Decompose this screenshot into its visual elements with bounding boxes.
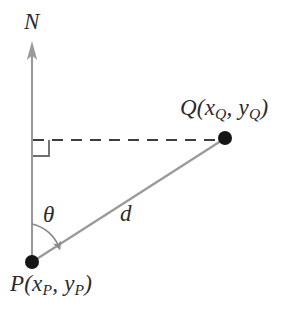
point-q-comma: , (227, 95, 239, 120)
point-p-x-subscript: P (43, 281, 53, 298)
point-p-dot (25, 255, 39, 269)
bearing-diagram: N θ d Q(xQ, yQ) P(xP, yP) (0, 0, 288, 310)
point-q-y-subscript: Q (249, 105, 260, 122)
point-p-x-var: x (32, 271, 42, 296)
point-p-name: P (10, 271, 24, 296)
point-p-label: P(xP, yP) (10, 272, 92, 298)
theta-angle-label: θ (43, 203, 55, 226)
point-q-x-var: x (205, 95, 215, 120)
angle-arc-theta (32, 224, 59, 247)
point-q-label: Q(xQ, yQ) (180, 96, 268, 122)
point-p-open-paren: ( (24, 271, 32, 296)
distance-label: d (120, 202, 132, 225)
diagram-canvas (0, 0, 288, 310)
point-q-name: Q (180, 95, 197, 120)
point-q-open-paren: ( (197, 95, 205, 120)
point-q-y-var: y (238, 95, 248, 120)
point-p-y-subscript: P (75, 281, 85, 298)
point-q-dot (218, 131, 232, 145)
point-p-comma: , (52, 271, 64, 296)
point-p-close-paren: ) (84, 271, 92, 296)
right-angle-marker-icon (33, 140, 49, 156)
north-label: N (24, 10, 40, 33)
point-q-close-paren: ) (260, 95, 268, 120)
point-q-x-subscript: Q (215, 105, 226, 122)
point-p-y-var: y (64, 271, 74, 296)
